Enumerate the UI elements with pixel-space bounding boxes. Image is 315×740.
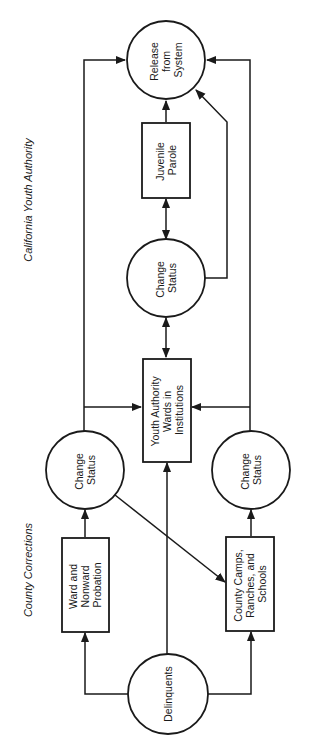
node-juvenile-parole: Juvenile Parole — [142, 123, 190, 198]
flow-diagram: California Youth Authority County Correc… — [0, 0, 315, 740]
node-change-status-top: Change Status — [127, 239, 205, 317]
edge-change-left-camps — [115, 495, 225, 582]
node-county-camps-ranches-schools: County Camps, Ranches, and Schools — [226, 537, 274, 631]
svg-text:Change Status: Change Status — [73, 450, 97, 490]
node-ward-nonward-probation: Ward and Nonward Probation — [62, 538, 109, 632]
node-release-from-system: Release from System — [127, 21, 205, 99]
svg-text:Ward and Nonward P: Ward and Nonward Probation — [67, 561, 103, 609]
node-delinquents: Delinquents — [128, 654, 208, 734]
svg-text:Juvenile Parole: Juvenile Parole — [154, 139, 178, 180]
edge-change-right-release — [207, 60, 250, 431]
edge-change-left-release — [84, 60, 125, 431]
section-label-cya: California Youth Authority — [22, 137, 34, 262]
section-label-county: County Corrections — [22, 522, 34, 617]
node-change-status-left: Change Status — [46, 431, 124, 509]
node-youth-authority-institutions: Youth Authority Wards in Institutions — [143, 359, 191, 462]
edge-delinquents-camps — [208, 632, 251, 694]
svg-text:Delinquents: Delinquents — [162, 666, 174, 721]
edge-delinquents-probation — [85, 633, 128, 694]
svg-text:Change Status: Change Status — [154, 258, 178, 298]
edge-change-top-release — [196, 90, 227, 278]
node-change-status-right: Change Status — [212, 431, 290, 509]
svg-text:Change Status: Change Status — [239, 450, 263, 490]
